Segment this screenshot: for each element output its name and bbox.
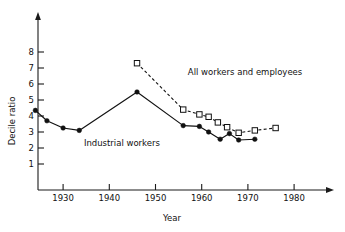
data-point-filled-circle — [33, 108, 38, 113]
y-tick-label-7: 7 — [29, 63, 34, 73]
data-point-filled-circle — [218, 137, 223, 142]
x-tick-label-1950: 1950 — [145, 193, 167, 203]
data-point-filled-circle — [135, 90, 140, 95]
annotation-layer: All workers and employeesIndustrial work… — [84, 67, 303, 147]
data-point-filled-circle — [197, 124, 202, 129]
x-axis-arrow-icon — [326, 187, 334, 193]
data-point-open-square — [134, 61, 139, 66]
data-point-open-square — [224, 125, 229, 130]
y-tick-label-6: 6 — [29, 79, 34, 89]
data-point-open-square — [252, 128, 257, 133]
annotation-all-workers: All workers and employees — [188, 67, 303, 77]
x-tick-label-1970: 1970 — [237, 193, 259, 203]
y-tick-label-4: 4 — [29, 111, 34, 121]
annotation-industrial-workers: Industrial workers — [84, 138, 161, 148]
data-point-open-square — [181, 107, 186, 112]
y-tick-label-2: 2 — [29, 143, 34, 153]
data-point-filled-circle — [236, 138, 241, 143]
data-point-filled-circle — [45, 119, 50, 124]
chart-container: 8 7 6 5 4 3 2 1 1930 1940 1950 — [0, 0, 345, 232]
x-tick-label-1930: 1930 — [52, 193, 74, 203]
data-point-open-square — [215, 120, 220, 125]
y-tick-label-8: 8 — [29, 47, 34, 57]
y-axis-arrow-icon — [35, 12, 41, 20]
series-industrial-workers — [33, 90, 257, 143]
data-point-filled-circle — [206, 130, 211, 135]
data-point-open-square — [206, 114, 211, 119]
data-point-filled-circle — [61, 126, 66, 131]
y-tick-label-3: 3 — [29, 127, 34, 137]
series-line — [35, 92, 254, 140]
decile-ratio-line-chart: 8 7 6 5 4 3 2 1 1930 1940 1950 — [0, 0, 345, 232]
data-point-open-square — [273, 125, 278, 130]
data-point-open-square — [236, 130, 241, 135]
data-point-open-square — [197, 112, 202, 117]
y-tick-group: 8 7 6 5 4 3 2 1 — [29, 47, 44, 169]
data-point-filled-circle — [253, 137, 258, 142]
data-point-filled-circle — [181, 123, 186, 128]
y-axis-title: Decile ratio — [7, 97, 17, 146]
x-tick-group: 1930 1940 1950 1960 1970 1980 — [52, 184, 305, 203]
data-point-filled-circle — [77, 128, 82, 133]
x-tick-label-1980: 1980 — [283, 193, 305, 203]
x-axis-title: Year — [162, 213, 182, 223]
x-tick-label-1940: 1940 — [98, 193, 120, 203]
x-tick-label-1960: 1960 — [191, 193, 213, 203]
data-point-filled-circle — [227, 131, 232, 136]
y-tick-label-5: 5 — [29, 95, 34, 105]
y-axis — [35, 12, 41, 190]
y-tick-label-1: 1 — [29, 159, 34, 169]
